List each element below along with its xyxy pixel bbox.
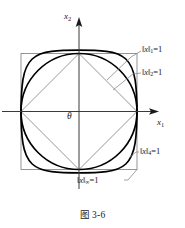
- norm-inf-equals: =1: [89, 175, 98, 185]
- y-axis-label-sub: 2: [68, 15, 71, 22]
- norm-1-label: ‖x‖1=1: [142, 45, 162, 54]
- norm-4-leader-line: [129, 152, 139, 158]
- norm-2-equals: =1: [153, 67, 162, 77]
- x-axis-label-sub: 1: [161, 121, 164, 128]
- figure-caption-cjk: 图: [80, 210, 90, 220]
- origin-label: θ: [67, 112, 72, 122]
- norm-unit-balls-diagram: [0, 0, 185, 228]
- x-axis-label: x1: [157, 118, 164, 128]
- norm-2-label: ‖x‖2=1: [142, 68, 162, 77]
- norm-4-equals: =1: [151, 146, 160, 156]
- figure-caption: 图 3-6: [0, 207, 185, 221]
- norm-4-label: ‖x‖4=1: [140, 147, 160, 156]
- norm-inf-leader-line: [124, 170, 137, 181]
- figure-caption-number: 3-6: [92, 210, 106, 220]
- figure-page: x2 x1 θ ‖x‖1=1 ‖x‖2=1 ‖x‖4=1 ‖x‖∞=1 图 3-…: [0, 0, 185, 228]
- norm-inf-label: ‖x‖∞=1: [77, 176, 98, 185]
- norm-1-equals: =1: [153, 44, 162, 54]
- y-axis-label: x2: [64, 12, 71, 22]
